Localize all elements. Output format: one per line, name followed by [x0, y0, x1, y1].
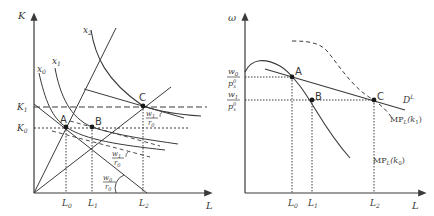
left-y-axis-label: K: [17, 10, 26, 21]
tangent-at-c: [84, 89, 184, 118]
tangent-dashed-a: [52, 131, 150, 157]
l1-tick-label-left: L1: [87, 198, 98, 209]
k1-tick-label: K1: [16, 102, 28, 113]
ray-steep: [34, 28, 116, 193]
svg-text:w1: w1: [112, 150, 121, 159]
k0-tick-label: K0: [16, 123, 28, 134]
l2-tick-label-left: L2: [138, 198, 149, 209]
point-c-left: [141, 104, 146, 109]
point-b-label-left: B: [95, 116, 102, 127]
isoquant-x0-label: x0: [37, 64, 46, 75]
point-a-label-right: A: [295, 66, 302, 77]
svg-text:r0: r0: [114, 159, 121, 168]
isoquant-x2-label: x2: [83, 25, 92, 36]
svg-text:w1: w1: [146, 110, 155, 119]
slope-label-w1-r0-upper: w1 r0: [146, 110, 162, 128]
l0-tick-label-left: L0: [61, 198, 72, 209]
point-a-left: [64, 125, 69, 130]
l0-tick-label-right: L0: [287, 198, 298, 209]
w1-over-px0-tick: w1 px0: [227, 90, 240, 112]
isoquant-x1-label: x1: [52, 56, 61, 67]
svg-text:w0: w0: [228, 67, 239, 77]
svg-text:r0: r0: [148, 119, 155, 128]
l1-tick-label-right: L1: [307, 198, 318, 209]
right-y-axis-label: ω: [228, 12, 236, 23]
point-c-label-right: C: [377, 91, 384, 102]
left-x-axis-label: L: [205, 200, 213, 211]
slope-label-w1-r0-lower: w1 r0: [112, 150, 128, 168]
w0-over-px0-tick: w0 px0: [227, 67, 240, 89]
isoquant-x1: [55, 68, 178, 144]
angle-arc: [115, 175, 124, 193]
point-c-right: [372, 98, 377, 103]
figure-canvas: K L A B C x0 x1 x2: [0, 0, 434, 216]
point-a-label-left: A: [60, 114, 67, 125]
point-b-right: [310, 98, 315, 103]
svg-text:w0: w0: [103, 174, 113, 183]
l2-tick-label-right: L2: [369, 198, 380, 209]
svg-text:px0: px0: [228, 78, 237, 89]
right-panel-labor-demand: ω L A B C DL MPL(k1) MPL(k0) w0 px0: [227, 12, 423, 211]
slope-label-w0-r0: w0 r0: [103, 174, 116, 192]
left-panel-isoquant-diagram: K L A B C x0 x1 x2: [16, 10, 213, 211]
right-x-axis-label: L: [411, 200, 419, 211]
isoquant-x2: [91, 30, 201, 116]
svg-text:w1: w1: [228, 90, 238, 100]
point-b-label-right: B: [315, 91, 322, 102]
demand-curve-label: DL: [402, 93, 414, 105]
svg-text:r0: r0: [105, 183, 112, 192]
mp-l-k0-label: MPL(k0): [373, 156, 405, 166]
point-a-right: [290, 75, 295, 80]
labor-demand-curve: [265, 69, 405, 110]
point-b-left: [90, 125, 95, 130]
mp-l-k1-curve: [292, 41, 392, 118]
svg-text:px0: px0: [228, 101, 237, 112]
mp-l-k1-label: MPL(k1): [390, 115, 422, 125]
point-c-label-left: C: [139, 92, 146, 103]
